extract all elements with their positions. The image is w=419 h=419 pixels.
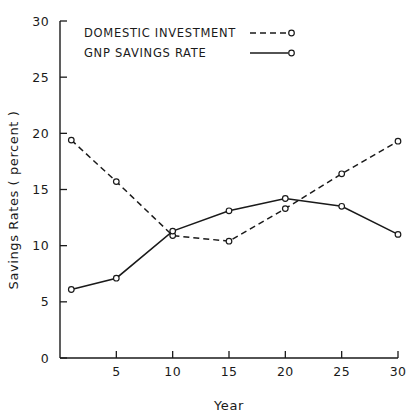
legend-label: GNP SAVINGS RATE <box>84 46 206 60</box>
chart-legend: DOMESTIC INVESTMENTGNP SAVINGS RATE <box>84 26 294 60</box>
data-point-marker <box>339 204 345 210</box>
data-point-marker <box>226 238 232 244</box>
legend-marker-sample <box>289 50 295 56</box>
series-2 <box>69 196 401 293</box>
x-axis-title: Year <box>213 398 244 413</box>
y-tick-label: 15 <box>32 182 49 197</box>
y-tick-label: 5 <box>41 294 49 309</box>
y-tick-label: 10 <box>32 238 49 253</box>
x-tick-label: 20 <box>277 364 294 379</box>
y-tick-label: 25 <box>32 70 49 85</box>
axis-group <box>60 21 398 358</box>
data-point-marker <box>283 196 289 202</box>
data-point-marker <box>226 208 232 214</box>
x-tick-label: 10 <box>164 364 181 379</box>
data-point-marker <box>114 179 120 185</box>
chart-container: 051015202530 51015202530 DOMESTIC INVEST… <box>0 0 419 419</box>
data-point-marker <box>69 287 75 293</box>
legend-entry-2: GNP SAVINGS RATE <box>84 46 294 60</box>
y-axis-ticks: 051015202530 <box>32 14 67 366</box>
y-tick-label: 20 <box>32 126 49 141</box>
x-tick-label: 30 <box>390 364 407 379</box>
series-line <box>71 140 398 241</box>
legend-marker-sample <box>289 30 295 36</box>
data-point-marker <box>283 206 289 212</box>
series-1 <box>69 137 401 244</box>
series-line <box>71 199 398 290</box>
legend-label: DOMESTIC INVESTMENT <box>84 26 236 40</box>
x-axis-ticks: 51015202530 <box>112 351 406 379</box>
line-chart-svg: 051015202530 51015202530 DOMESTIC INVEST… <box>0 0 419 419</box>
data-point-marker <box>114 275 120 281</box>
y-axis-title: Savings Rates ( percent ) <box>6 111 21 290</box>
legend-entry-1: DOMESTIC INVESTMENT <box>84 26 294 40</box>
y-tick-label: 30 <box>32 14 49 29</box>
x-tick-label: 25 <box>333 364 350 379</box>
data-series-layer <box>69 137 401 292</box>
x-tick-label: 5 <box>112 364 120 379</box>
y-tick-label: 0 <box>41 351 49 366</box>
data-point-marker <box>170 228 176 234</box>
x-tick-label: 15 <box>221 364 238 379</box>
data-point-marker <box>395 232 401 238</box>
data-point-marker <box>339 171 345 177</box>
data-point-marker <box>395 138 401 144</box>
data-point-marker <box>69 137 75 143</box>
